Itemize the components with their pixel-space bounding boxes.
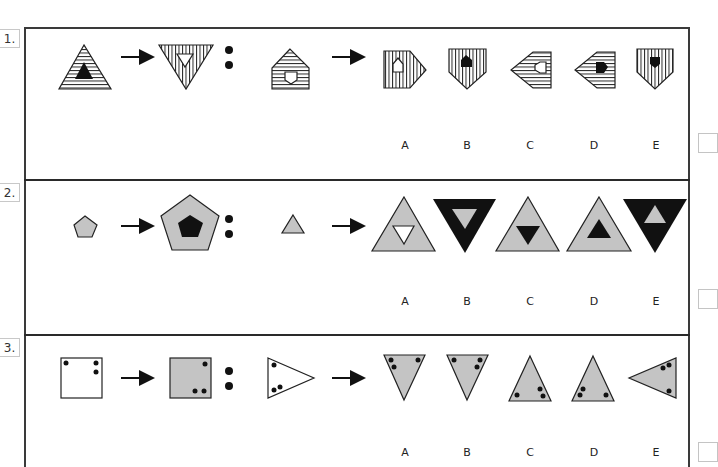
q1-option-label-c[interactable]: C bbox=[520, 139, 540, 152]
q1-figures bbox=[59, 45, 673, 89]
q3-option-e[interactable] bbox=[629, 358, 676, 398]
colon-dot bbox=[225, 46, 233, 54]
q3-option-label-d[interactable]: D bbox=[584, 446, 604, 459]
q2-option-e[interactable] bbox=[623, 199, 687, 253]
q2-option-label-a[interactable]: A bbox=[395, 295, 415, 308]
q2-option-label-e[interactable]: E bbox=[646, 295, 666, 308]
q3-option-d[interactable] bbox=[572, 356, 614, 401]
q2-option-label-b[interactable]: B bbox=[457, 295, 477, 308]
q1-option-label-a[interactable]: A bbox=[395, 139, 415, 152]
q2-option-c[interactable] bbox=[496, 197, 559, 251]
colon-dot bbox=[225, 382, 233, 390]
q1-option-c[interactable] bbox=[511, 52, 551, 88]
q2-small-triangle bbox=[282, 215, 304, 233]
q1-source-triangle bbox=[59, 45, 111, 89]
q2-option-b[interactable] bbox=[433, 199, 496, 253]
colon-dot bbox=[225, 367, 233, 375]
q2-small-pentagon bbox=[74, 216, 97, 237]
q2-option-label-d[interactable]: D bbox=[584, 295, 604, 308]
q2-option-label-c[interactable]: C bbox=[520, 295, 540, 308]
q3-option-label-e[interactable]: E bbox=[646, 446, 666, 459]
q1-option-b[interactable] bbox=[449, 49, 486, 89]
q3-option-label-a[interactable]: A bbox=[395, 446, 415, 459]
q3-option-label-b[interactable]: B bbox=[457, 446, 477, 459]
q3-option-a[interactable] bbox=[384, 355, 425, 400]
q1-source-house bbox=[272, 49, 309, 89]
colon-dot bbox=[225, 61, 233, 69]
q3-option-c[interactable] bbox=[509, 356, 551, 401]
q3-source-triangle bbox=[268, 358, 314, 398]
q1-option-label-e[interactable]: E bbox=[646, 139, 666, 152]
q3-option-b[interactable] bbox=[447, 355, 488, 400]
q1-target-triangle bbox=[159, 45, 213, 89]
q1-option-label-d[interactable]: D bbox=[584, 139, 604, 152]
q1-option-d[interactable] bbox=[575, 52, 615, 88]
q3-source-square bbox=[61, 358, 102, 398]
colon-dot bbox=[225, 215, 233, 223]
q2-option-a[interactable] bbox=[372, 197, 435, 251]
q3-target-square bbox=[170, 358, 211, 398]
q2-option-d[interactable] bbox=[567, 197, 631, 251]
q1-option-a[interactable] bbox=[384, 51, 426, 88]
colon-dot bbox=[225, 230, 233, 238]
q1-option-label-b[interactable]: B bbox=[457, 139, 477, 152]
q3-figures bbox=[61, 355, 676, 401]
q3-option-label-c[interactable]: C bbox=[520, 446, 540, 459]
q2-large-pentagon bbox=[161, 195, 219, 250]
q2-figures bbox=[74, 195, 687, 253]
q1-option-e[interactable] bbox=[637, 49, 673, 89]
